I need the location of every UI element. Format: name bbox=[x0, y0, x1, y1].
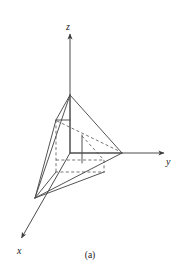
hidden-edges-group bbox=[55, 120, 121, 172]
edge-back-top-to-x-vertex bbox=[35, 120, 56, 198]
tetrahedron-diagram-canvas bbox=[0, 0, 180, 273]
hidden-inner-diagonal-edge bbox=[57, 121, 121, 152]
z-axis-label: z bbox=[66, 22, 70, 32]
axes-group bbox=[22, 34, 165, 238]
hidden-inner-lower-diagonal-edge bbox=[82, 136, 104, 160]
solid-edges-group bbox=[35, 95, 122, 198]
figure-container: z y x (a) bbox=[0, 0, 180, 273]
y-axis-label: y bbox=[166, 157, 170, 167]
figure-caption: (a) bbox=[0, 250, 180, 260]
edge-apex-to-y-vertex bbox=[70, 95, 122, 153]
